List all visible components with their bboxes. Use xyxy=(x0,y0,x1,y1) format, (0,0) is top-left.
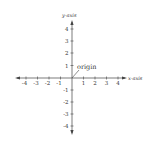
y-tick-label: -2 xyxy=(63,99,68,105)
y-tick-label: -3 xyxy=(63,111,69,117)
origin-pointer-line xyxy=(72,70,79,78)
y-tick-label: -4 xyxy=(63,123,69,129)
x-tick-label: 2 xyxy=(93,80,97,86)
x-tick-label: 1 xyxy=(82,80,86,86)
coordinate-plane: -4 -3 -2 -1 1 2 3 4 x-axis 4 3 2 1 -1 -2… xyxy=(0,0,153,149)
y-axis: 4 3 2 1 -1 -2 -3 -4 y-axis xyxy=(61,12,77,135)
x-tick-label: -2 xyxy=(45,80,50,86)
origin-annotation: origin xyxy=(72,63,97,78)
y-axis-label: y-axis xyxy=(61,12,77,19)
y-tick-label: -1 xyxy=(63,87,68,93)
y-tick-label: 2 xyxy=(65,50,69,56)
x-axis-right-arrow-icon xyxy=(122,76,127,79)
origin-label: origin xyxy=(77,63,97,71)
x-tick-label: -4 xyxy=(22,80,28,86)
x-axis-left-arrow-icon xyxy=(15,76,20,79)
x-axis-label: x-axis xyxy=(128,75,143,81)
y-axis-down-arrow-icon xyxy=(70,130,73,135)
x-tick-label: 3 xyxy=(105,80,109,86)
x-tick-label: -3 xyxy=(33,80,39,86)
x-axis: -4 -3 -2 -1 1 2 3 4 x-axis xyxy=(15,75,143,86)
y-tick-label: 1 xyxy=(65,63,69,69)
x-tick-label: 4 xyxy=(116,80,120,86)
y-axis-up-arrow-icon xyxy=(70,20,73,25)
y-tick-label: 4 xyxy=(65,26,69,32)
x-tick-label: -1 xyxy=(56,80,61,86)
y-tick-label: 3 xyxy=(65,38,69,44)
